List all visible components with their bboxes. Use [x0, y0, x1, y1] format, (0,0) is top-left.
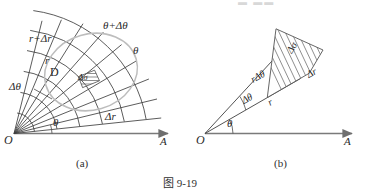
sublabel-b: (b)	[274, 158, 287, 169]
figure-caption: 图 9-19	[163, 178, 197, 189]
label-delta-r-a: Δr	[105, 111, 116, 122]
label-delta-theta-a: Δθ	[9, 81, 21, 92]
panel-b-delta-sigma-sector	[267, 29, 323, 98]
label-r: r	[45, 55, 49, 66]
label-theta-outer: θ	[133, 45, 138, 56]
label-r-plus-delta-r: r+Δr	[29, 33, 51, 44]
label-region-d: D	[50, 66, 59, 78]
label-theta-plus-delta-theta: θ+Δθ	[103, 20, 128, 31]
figure-vector-canvas	[0, 0, 369, 196]
label-origin-a: O	[4, 134, 13, 146]
label-axis-b: A	[344, 136, 351, 147]
label-delta-sigma-a: Δσ	[78, 73, 88, 82]
label-origin-b: O	[196, 134, 205, 146]
sublabel-a: (a)	[76, 158, 88, 169]
figure-9-19: ▬ ▬▬	[0, 0, 369, 196]
label-theta-b: θ	[227, 118, 232, 129]
label-axis-a: A	[160, 136, 167, 147]
label-theta-inner-a: θ	[53, 117, 58, 128]
